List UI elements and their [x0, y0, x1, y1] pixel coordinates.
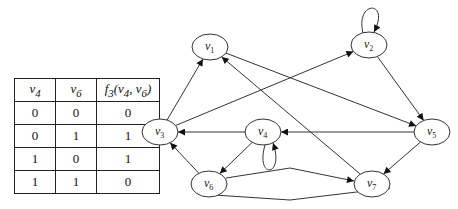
graph-nodes: v1v2v3v4v5v6v7 [142, 32, 450, 197]
directed-graph: v1v2v3v4v5v6v7 [0, 0, 458, 209]
edge-v6-v7 [226, 168, 354, 181]
node-v2: v2 [351, 32, 387, 58]
edge-v2-v2 [362, 8, 379, 33]
edge-v7-v1 [222, 57, 361, 174]
edge-v1-v5 [226, 53, 416, 126]
node-v7: v7 [354, 171, 390, 197]
node-v5: v5 [414, 119, 450, 145]
edge-v4-v6 [220, 142, 252, 173]
node-v6: v6 [191, 171, 227, 197]
edge-v4-v4 [263, 143, 276, 170]
node-v3: v3 [142, 119, 178, 145]
edge-v5-v7 [384, 142, 421, 174]
edge-v3-v2 [176, 51, 354, 125]
node-v4: v4 [245, 119, 281, 145]
node-v1: v1 [192, 34, 228, 60]
edge-v6-v3 [170, 143, 199, 174]
edge-v3-v1 [167, 59, 203, 120]
edge-v2-v5 [377, 57, 423, 121]
